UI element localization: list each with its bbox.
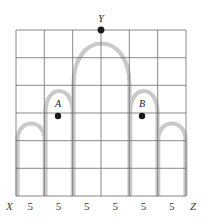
arch-diagram-figure: Y A B X Z 5 5 5 5 5 5 — [0, 0, 204, 223]
point-label-y: Y — [93, 14, 109, 24]
arch-curve-group — [18, 44, 186, 197]
point-a-marker — [55, 113, 61, 119]
point-y-marker — [98, 27, 105, 34]
axis-endpoint-z: Z — [190, 201, 196, 212]
tick-label-5: 5 — [137, 201, 151, 212]
arch-curve-5 — [158, 124, 185, 197]
point-label-a: A — [50, 99, 66, 109]
tick-label-3: 5 — [80, 201, 94, 212]
tick-label-6: 5 — [165, 201, 179, 212]
tick-label-4: 5 — [108, 201, 122, 212]
tick-label-2: 5 — [52, 201, 66, 212]
diagram-canvas — [0, 0, 204, 223]
axis-endpoint-x: X — [6, 201, 13, 212]
arch-curve-1 — [18, 124, 45, 197]
point-b-marker — [139, 113, 145, 119]
point-label-b: B — [134, 99, 150, 109]
tick-label-1: 5 — [23, 201, 37, 212]
arch-curve-3 — [74, 44, 130, 197]
grid-lines — [16, 30, 186, 196]
